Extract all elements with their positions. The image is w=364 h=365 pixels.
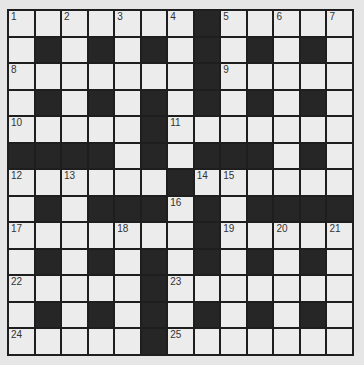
answer-cell[interactable]	[9, 197, 34, 222]
answer-cell[interactable]	[327, 144, 352, 169]
answer-cell[interactable]	[36, 329, 61, 354]
answer-cell[interactable]	[168, 250, 193, 275]
answer-cell[interactable]: 23	[168, 276, 193, 301]
answer-cell[interactable]	[248, 223, 273, 248]
answer-cell[interactable]: 8	[9, 64, 34, 89]
answer-cell[interactable]	[168, 64, 193, 89]
answer-cell[interactable]	[248, 329, 273, 354]
answer-cell[interactable]	[221, 38, 246, 63]
answer-cell[interactable]: 25	[168, 329, 193, 354]
answer-cell[interactable]	[62, 276, 87, 301]
answer-cell[interactable]	[142, 11, 167, 36]
answer-cell[interactable]: 2	[62, 11, 87, 36]
answer-cell[interactable]	[142, 223, 167, 248]
answer-cell[interactable]	[274, 64, 299, 89]
answer-cell[interactable]: 19	[221, 223, 246, 248]
answer-cell[interactable]	[62, 303, 87, 328]
answer-cell[interactable]	[274, 170, 299, 195]
answer-cell[interactable]: 5	[221, 11, 246, 36]
answer-cell[interactable]	[327, 170, 352, 195]
answer-cell[interactable]	[274, 250, 299, 275]
answer-cell[interactable]	[301, 11, 326, 36]
answer-cell[interactable]: 21	[327, 223, 352, 248]
answer-cell[interactable]	[274, 144, 299, 169]
answer-cell[interactable]	[327, 38, 352, 63]
answer-cell[interactable]	[301, 329, 326, 354]
answer-cell[interactable]	[115, 170, 140, 195]
answer-cell[interactable]	[115, 38, 140, 63]
answer-cell[interactable]	[221, 329, 246, 354]
answer-cell[interactable]: 22	[9, 276, 34, 301]
answer-cell[interactable]: 11	[168, 117, 193, 142]
answer-cell[interactable]	[36, 64, 61, 89]
answer-cell[interactable]	[62, 197, 87, 222]
answer-cell[interactable]: 13	[62, 170, 87, 195]
answer-cell[interactable]	[142, 64, 167, 89]
answer-cell[interactable]: 3	[115, 11, 140, 36]
answer-cell[interactable]	[221, 91, 246, 116]
answer-cell[interactable]	[115, 303, 140, 328]
answer-cell[interactable]	[62, 117, 87, 142]
answer-cell[interactable]	[327, 303, 352, 328]
answer-cell[interactable]	[301, 170, 326, 195]
answer-cell[interactable]: 1	[9, 11, 34, 36]
answer-cell[interactable]	[142, 170, 167, 195]
answer-cell[interactable]	[195, 276, 220, 301]
answer-cell[interactable]	[89, 117, 114, 142]
answer-cell[interactable]	[9, 91, 34, 116]
answer-cell[interactable]	[248, 64, 273, 89]
answer-cell[interactable]	[301, 117, 326, 142]
answer-cell[interactable]	[115, 144, 140, 169]
answer-cell[interactable]	[274, 329, 299, 354]
answer-cell[interactable]	[62, 250, 87, 275]
answer-cell[interactable]	[62, 223, 87, 248]
answer-cell[interactable]	[115, 276, 140, 301]
answer-cell[interactable]: 12	[9, 170, 34, 195]
answer-cell[interactable]	[327, 276, 352, 301]
answer-cell[interactable]	[274, 91, 299, 116]
answer-cell[interactable]	[301, 276, 326, 301]
answer-cell[interactable]	[274, 303, 299, 328]
answer-cell[interactable]: 14	[195, 170, 220, 195]
answer-cell[interactable]	[327, 250, 352, 275]
answer-cell[interactable]	[89, 170, 114, 195]
answer-cell[interactable]	[168, 144, 193, 169]
answer-cell[interactable]	[62, 91, 87, 116]
answer-cell[interactable]	[301, 64, 326, 89]
answer-cell[interactable]	[36, 223, 61, 248]
answer-cell[interactable]	[248, 276, 273, 301]
answer-cell[interactable]	[9, 303, 34, 328]
answer-cell[interactable]	[115, 91, 140, 116]
answer-cell[interactable]: 10	[9, 117, 34, 142]
answer-cell[interactable]: 9	[221, 64, 246, 89]
answer-cell[interactable]	[89, 64, 114, 89]
answer-cell[interactable]	[115, 329, 140, 354]
answer-cell[interactable]	[195, 117, 220, 142]
answer-cell[interactable]	[89, 276, 114, 301]
answer-cell[interactable]	[36, 117, 61, 142]
answer-cell[interactable]: 6	[274, 11, 299, 36]
answer-cell[interactable]	[221, 117, 246, 142]
answer-cell[interactable]	[221, 250, 246, 275]
answer-cell[interactable]: 20	[274, 223, 299, 248]
answer-cell[interactable]	[36, 170, 61, 195]
answer-cell[interactable]	[62, 329, 87, 354]
answer-cell[interactable]	[327, 329, 352, 354]
answer-cell[interactable]	[248, 170, 273, 195]
answer-cell[interactable]	[168, 38, 193, 63]
answer-cell[interactable]	[327, 64, 352, 89]
answer-cell[interactable]	[327, 91, 352, 116]
answer-cell[interactable]	[248, 117, 273, 142]
answer-cell[interactable]	[274, 117, 299, 142]
answer-cell[interactable]	[36, 276, 61, 301]
answer-cell[interactable]: 15	[221, 170, 246, 195]
answer-cell[interactable]	[168, 303, 193, 328]
answer-cell[interactable]	[274, 276, 299, 301]
answer-cell[interactable]: 24	[9, 329, 34, 354]
answer-cell[interactable]	[195, 329, 220, 354]
answer-cell[interactable]	[301, 223, 326, 248]
answer-cell[interactable]: 16	[168, 197, 193, 222]
answer-cell[interactable]	[168, 91, 193, 116]
answer-cell[interactable]	[115, 64, 140, 89]
answer-cell[interactable]	[221, 303, 246, 328]
